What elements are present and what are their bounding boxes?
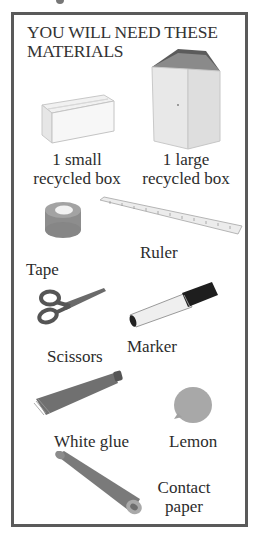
paper-roll-icon [50,451,142,517]
lemon-label: Lemon [169,432,217,451]
small-box-label: 1 small recycled box [32,150,122,188]
ruler-icon [96,196,244,238]
marker-label: Marker [127,337,177,356]
contact-paper-label: Contact paper [154,478,214,516]
scissors-label: Scissors [47,347,103,366]
lemon-icon [170,385,214,429]
ruler-label: Ruler [140,243,178,262]
scissors-icon [36,286,106,326]
materials-panel: YOU WILL NEED THESE MATERIALS 1 small re… [11,12,248,527]
cropped-glyph-fragment [56,0,64,4]
white-glue-label: White glue [54,432,129,451]
large-box-icon [148,45,224,153]
title-line-1: YOU WILL NEED THESE [27,22,218,42]
tape-icon [42,201,86,241]
title-line-2: MATERIALS [27,41,123,61]
small-box-icon [38,87,118,147]
large-box-label: 1 large recycled box [138,150,234,188]
marker-icon [126,281,222,331]
tape-label: Tape [26,260,59,279]
glue-tube-icon [32,369,124,419]
